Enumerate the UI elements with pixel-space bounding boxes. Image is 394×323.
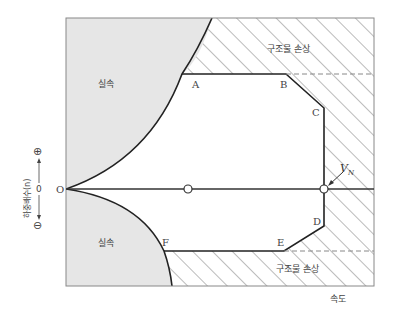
stall-label-lower: 실속 (98, 238, 114, 248)
y-zero-label: 0 (36, 184, 42, 194)
point-label-f: F (162, 237, 169, 248)
stall-label-upper: 실속 (98, 79, 114, 89)
structural-damage-label-lower: 구조물 손상 (276, 264, 319, 274)
point-label-o: O (56, 184, 64, 195)
point-label-a: A (191, 79, 200, 90)
vn-point (320, 185, 328, 193)
point-label-e: E (277, 237, 284, 248)
point-label-d: D (313, 216, 321, 227)
vn-diagram: 실속 실속 구조물 손상 구조물 손상 O A B C D E F VN 속도 … (0, 0, 394, 323)
x-axis-label: 속도 (330, 294, 346, 304)
y-positive-symbol: ⊕ (33, 145, 42, 158)
y-negative-symbol: ⊖ (33, 219, 42, 232)
point-label-c: C (312, 107, 320, 118)
structural-damage-label-upper: 구조물 손상 (267, 44, 310, 54)
point-label-b: B (280, 79, 287, 90)
y-axis-label: 하중배수(n) (22, 179, 32, 218)
y-arrowhead-up (37, 158, 41, 163)
stall-speed-point (184, 185, 192, 193)
